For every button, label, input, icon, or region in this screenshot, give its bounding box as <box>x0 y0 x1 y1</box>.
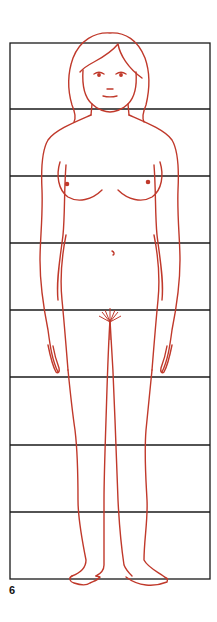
navel-icon <box>112 251 114 255</box>
right-pupil <box>120 74 122 76</box>
pubic-hair-mark <box>99 308 121 340</box>
figure-number: 6 <box>9 584 15 596</box>
left-foot <box>70 576 100 585</box>
left-waist <box>61 235 68 370</box>
proportion-diagram <box>0 0 217 622</box>
right-nipple <box>146 180 149 183</box>
right-foot <box>126 577 167 585</box>
mouth-icon <box>103 96 117 97</box>
hair-part <box>80 44 142 78</box>
right-leg-outer <box>144 370 166 578</box>
right-waist <box>152 235 159 370</box>
left-leg-inner <box>96 320 110 576</box>
right-leg-inner <box>110 320 132 576</box>
left-leg-outer <box>68 370 86 576</box>
left-nipple <box>65 182 68 185</box>
left-pupil <box>98 74 100 76</box>
